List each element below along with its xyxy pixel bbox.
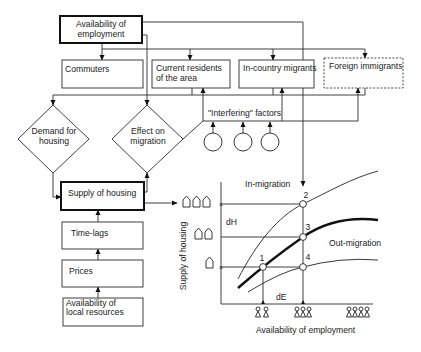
house-icons-2 bbox=[195, 228, 212, 239]
house-icon bbox=[206, 257, 213, 268]
dE-label: dE bbox=[276, 292, 287, 302]
house-icon bbox=[195, 228, 202, 239]
current-residents-line1: Current residents bbox=[156, 63, 222, 73]
in-country-migrants-box: In-country migrants bbox=[239, 60, 317, 88]
people-icons-3 bbox=[295, 307, 312, 317]
out-migration-label: Out-migration bbox=[329, 238, 381, 248]
prices-label: Prices bbox=[69, 266, 93, 276]
prices-box: Prices bbox=[62, 260, 143, 287]
foreign-immigrants-label: Foreign immigrants bbox=[329, 61, 403, 71]
house-icons-1 bbox=[206, 257, 213, 268]
time-lags-label: Time-lags bbox=[71, 228, 108, 238]
person-icon bbox=[365, 307, 370, 317]
house-icon bbox=[203, 196, 210, 207]
availability-of-employment-line2: employment bbox=[78, 29, 125, 39]
person-icon bbox=[295, 307, 300, 317]
commuters-label: Commuters bbox=[65, 64, 109, 74]
person-icon bbox=[347, 307, 352, 317]
effect-line2: migration bbox=[130, 136, 166, 146]
point-3-label: 3 bbox=[306, 222, 311, 232]
effect-on-migration-diamond: Effect on migration bbox=[112, 105, 183, 173]
arrow-employment-to-graph bbox=[142, 22, 303, 186]
demand-for-housing-diamond: Demand for housing bbox=[18, 105, 89, 173]
house-icon bbox=[193, 196, 200, 207]
effect-to-interfering-line bbox=[183, 121, 203, 139]
person-icon bbox=[307, 307, 312, 317]
tick-mark: × bbox=[219, 264, 223, 271]
person-icon bbox=[301, 307, 306, 317]
point-2 bbox=[300, 201, 307, 208]
effect-line1: Effect on bbox=[131, 126, 165, 136]
supply-of-housing-box: Supply of housing bbox=[61, 182, 144, 210]
demand-line1: Demand for bbox=[32, 126, 77, 136]
people-icons-2 bbox=[256, 307, 269, 317]
point-4-label: 4 bbox=[306, 252, 311, 262]
point-2-label: 2 bbox=[304, 190, 309, 200]
point-1-label: 1 bbox=[260, 253, 265, 263]
factor-circle bbox=[234, 133, 252, 151]
people-icons-4 bbox=[347, 307, 370, 317]
local-resources-box: Availability of local resources bbox=[63, 298, 143, 326]
person-icon bbox=[256, 307, 261, 317]
person-icon bbox=[264, 307, 269, 317]
house-icon bbox=[205, 228, 212, 239]
foreign-immigrants-box: Foreign immigrants bbox=[324, 58, 403, 88]
supply-of-housing-label: Supply of housing bbox=[68, 188, 137, 198]
current-residents-box: Current residents of the area bbox=[152, 60, 230, 88]
house-icon bbox=[183, 196, 190, 207]
supply-employment-graph: Supply of housing × × 1 2 3 4 In-migrati… bbox=[178, 171, 381, 335]
in-migration-label: In-migration bbox=[245, 179, 291, 189]
availability-of-employment-box: Availability of employment bbox=[60, 16, 142, 43]
person-icon bbox=[359, 307, 364, 317]
time-lags-box: Time-lags bbox=[62, 222, 143, 249]
availability-of-employment-line1: Availability of bbox=[76, 19, 127, 29]
point-1 bbox=[260, 264, 267, 271]
housing-migration-diagram: Availability of employment Commuters Cur… bbox=[0, 0, 421, 352]
y-axis-label: Supply of housing bbox=[178, 222, 188, 291]
factor-circle bbox=[204, 133, 222, 151]
current-residents-line2: of the area bbox=[156, 73, 197, 83]
in-country-migrants-label: In-country migrants bbox=[243, 63, 317, 73]
person-icon bbox=[353, 307, 358, 317]
local-resources-line2: local resources bbox=[66, 307, 124, 317]
tick-mark: × bbox=[219, 201, 223, 208]
house-icons-3 bbox=[183, 196, 210, 207]
interfering-factor-circles bbox=[204, 133, 279, 151]
point-4 bbox=[300, 264, 307, 271]
dH-label: dH bbox=[226, 217, 237, 227]
factor-circle bbox=[261, 133, 279, 151]
arrow-demand-to-supply bbox=[53, 173, 61, 197]
x-tick-arrow bbox=[301, 300, 305, 304]
point-3 bbox=[300, 234, 307, 241]
interfering-factors-label: "Interfering" factors bbox=[208, 108, 281, 118]
commuters-box: Commuters bbox=[62, 60, 143, 88]
x-tick-arrow bbox=[261, 300, 265, 304]
x-axis-label: Availability of employment bbox=[256, 325, 356, 335]
demand-line2: housing bbox=[39, 136, 69, 146]
